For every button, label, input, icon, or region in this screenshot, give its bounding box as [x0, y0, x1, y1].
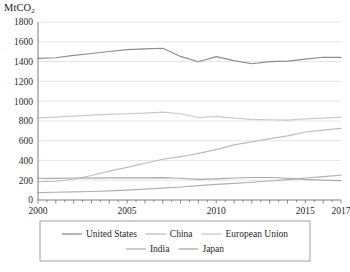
legend-box — [40, 221, 310, 261]
y-tick-label: 400 — [19, 156, 34, 166]
legend-label-japan: Japan — [202, 244, 224, 254]
x-tick-label: 2015 — [296, 206, 315, 216]
y-tick-label: 200 — [19, 176, 34, 186]
gridlines-group — [38, 22, 341, 180]
y-tick-label: 800 — [19, 116, 34, 126]
y-axis-title: MtCO2 — [4, 2, 35, 13]
y-tick-label: 1200 — [14, 77, 33, 87]
y-tick-label: 1000 — [14, 97, 33, 107]
x-tick-label: 2000 — [29, 206, 48, 216]
axes-group — [38, 22, 341, 200]
y-axis-title-text: MtCO — [4, 2, 31, 13]
y-tick-label: 1400 — [14, 57, 33, 67]
series-group — [38, 48, 341, 192]
chart-figure: MtCO2 020040060080010001200140016001800 … — [0, 0, 350, 272]
series-line-european-union — [38, 112, 341, 120]
legend-label-united-states: United States — [86, 229, 137, 239]
y-axis-title-subscript: 2 — [31, 7, 35, 15]
y-tick-label: 1600 — [14, 37, 33, 47]
legend-label-india: India — [150, 244, 170, 254]
y-tick-label: 0 — [28, 195, 33, 205]
legend-label-european-union: European Union — [226, 229, 289, 239]
legend-label-china: China — [170, 229, 193, 239]
y-tick-label: 1800 — [14, 17, 33, 27]
x-tick-label: 2005 — [118, 206, 137, 216]
y-tick-label: 600 — [19, 136, 34, 146]
x-tick-label: 2017 — [332, 206, 350, 216]
line-chart-svg: 020040060080010001200140016001800 200020… — [0, 0, 350, 272]
x-tick-labels-group: 20002005201020152017 — [29, 206, 350, 216]
legend: United StatesChinaEuropean UnionIndiaJap… — [40, 221, 310, 261]
tickmarks-group — [38, 200, 341, 204]
x-tick-label: 2010 — [207, 206, 226, 216]
series-line-china — [38, 128, 341, 181]
y-tick-labels-group: 020040060080010001200140016001800 — [14, 17, 33, 205]
